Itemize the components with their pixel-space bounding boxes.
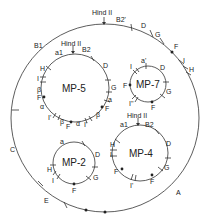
mp4-dot: [151, 174, 154, 177]
outer-label-h: H: [189, 66, 194, 73]
mp7-label-f2: F: [123, 82, 127, 89]
mp5-label-beta1: β: [96, 111, 100, 119]
mp7-label-i1: I'': [129, 100, 134, 107]
mp5-dot: [43, 96, 46, 99]
mp4-label-hind: Hind II: [127, 112, 147, 119]
outer-dot: [104, 211, 107, 214]
mp4-label-i1: I': [130, 182, 133, 189]
mp2-label-f: F: [72, 187, 76, 194]
arrow-head-icon: [71, 51, 75, 54]
mp4-label-b2: B2: [145, 121, 154, 128]
mp5-label-f3: F: [37, 94, 41, 101]
mp5-title: MP-5: [62, 83, 86, 94]
mp4-plasmid: MP-4 Hind II a1 B2 D G F I' F I H: [110, 112, 171, 189]
mp4-label-a1: a1: [120, 121, 128, 128]
mp4-label-i2: I: [110, 151, 112, 158]
outer-label-c: C: [10, 146, 15, 153]
mp2-plasmid: MP-2 a D G F I H: [47, 138, 100, 194]
outer-label-e: E: [44, 197, 49, 204]
mp5-plasmid: MP-5 Hind II a1 B2 D G a F β I' α F β I'…: [37, 40, 116, 130]
outer-label-hind: Hind II: [92, 9, 112, 16]
mp2-dot: [73, 183, 76, 186]
mp5-label-f1: F: [105, 105, 109, 112]
mp5-label-f2: F: [66, 123, 70, 130]
mp7-label-g: G: [166, 88, 171, 95]
mp2-label-h: H: [47, 166, 52, 173]
outer-label-b1: B1: [34, 42, 43, 49]
mp5-label-h: H: [40, 65, 45, 72]
outer-dot: [85, 209, 88, 212]
mp4-tick: [158, 167, 163, 171]
outer-label-b2: B2': [116, 16, 126, 23]
outer-dot: [171, 51, 174, 54]
mp5-label-beta3: β: [37, 86, 41, 94]
mp2-label-d: D: [95, 151, 100, 158]
mp7-dot: [129, 84, 132, 87]
mp5-label-beta2: β: [60, 118, 64, 126]
outer-tick: [131, 24, 132, 31]
mp7-label-i2: I: [130, 63, 132, 70]
outer-tick: [183, 66, 188, 69]
mp4-label-f1: F: [150, 178, 154, 185]
mp4-label-g: G: [164, 164, 169, 171]
mp4-tick: [131, 174, 133, 180]
outer-label-a: A: [176, 189, 181, 196]
mp5-label-i2: I': [48, 114, 51, 121]
mp7-label-a: a': [141, 57, 146, 64]
mp4-label-h: H: [110, 141, 115, 148]
mp5-label-alpha1: α: [76, 120, 80, 127]
mp2-title: MP-2: [62, 157, 86, 168]
arrow-head-icon: [102, 22, 106, 25]
mp5-dot: [101, 106, 104, 109]
mp4-label-f2: F: [114, 168, 118, 175]
outer-label-d: D: [141, 22, 146, 29]
outer-tick: [38, 181, 43, 186]
mp5-label-d: D: [103, 62, 108, 69]
mp5-label-a: a: [108, 96, 112, 103]
mp7-label-d: D: [160, 64, 165, 71]
outer-label-i: I: [183, 57, 185, 64]
mp5-label-hind: Hind II: [61, 40, 81, 47]
mp4-tick: [115, 139, 120, 143]
mp7-plasmid: MP-7 a' D G F I'' F I: [123, 57, 171, 111]
mp4-label-d: D: [166, 140, 171, 147]
mp4-tick: [135, 175, 136, 181]
mp5-label-a1: a1: [55, 49, 63, 56]
mp5-label-i1: I': [84, 121, 87, 128]
mp4-dot: [121, 168, 124, 171]
mp7-label-f1: F: [151, 104, 155, 111]
mp7-title: MP-7: [136, 79, 160, 90]
mp7-dot: [151, 101, 154, 104]
mp4-title: MP-4: [129, 148, 153, 159]
outer-label-f: F: [174, 43, 178, 50]
outer-label-g: G: [155, 31, 160, 38]
plasmid-map-diagram: Hind II B2' D G F I H A E C B1 MP-5 Hind…: [0, 0, 206, 224]
mp5-label-g: G: [111, 84, 116, 91]
mp2-label-g: G: [93, 174, 98, 181]
mp2-label-i: I: [52, 177, 54, 184]
mp5-label-alpha2: α: [40, 103, 44, 110]
mp5-label-b2: B2: [82, 46, 91, 53]
mp5-label-i3: I: [37, 75, 39, 82]
mp2-label-a: a: [60, 138, 64, 145]
